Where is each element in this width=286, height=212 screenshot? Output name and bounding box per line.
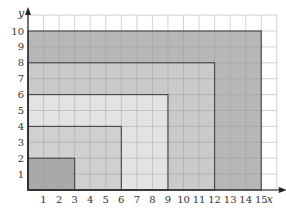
y-axis-arrow-icon <box>25 7 31 15</box>
x-tick-label: 7 <box>134 194 140 205</box>
nested-rectangles-diagram: 12345678910111213141512345678910xy <box>0 0 286 212</box>
x-tick-label: 5 <box>103 194 109 205</box>
x-tick-label: 13 <box>224 194 237 205</box>
x-tick-label: 4 <box>87 194 93 205</box>
x-tick-label: 11 <box>193 194 206 205</box>
y-tick-label: 9 <box>18 41 24 52</box>
y-tick-label: 3 <box>18 137 24 148</box>
x-tick-label: 10 <box>177 194 190 205</box>
y-tick-label: 4 <box>18 121 24 132</box>
y-tick-label: 8 <box>18 57 24 68</box>
x-axis-label: x <box>267 193 274 206</box>
x-tick-label: 9 <box>165 194 171 205</box>
y-axis-label: y <box>17 7 25 20</box>
x-tick-label: 6 <box>118 194 124 205</box>
y-tick-label: 6 <box>18 89 24 100</box>
x-tick-label: 3 <box>71 194 77 205</box>
x-tick-label: 14 <box>239 194 252 205</box>
x-tick-label: 12 <box>208 194 221 205</box>
y-tick-label: 1 <box>18 169 24 180</box>
x-tick-label: 1 <box>40 194 46 205</box>
y-tick-label: 10 <box>11 26 24 37</box>
y-tick-label: 5 <box>18 105 24 116</box>
y-tick-label: 7 <box>18 73 24 84</box>
x-tick-label: 2 <box>56 194 62 205</box>
x-tick-label: 8 <box>149 194 155 205</box>
x-axis-arrow-icon <box>279 187 286 193</box>
x-tick-label: 15 <box>255 194 268 205</box>
y-tick-label: 2 <box>18 153 24 164</box>
